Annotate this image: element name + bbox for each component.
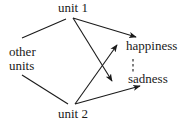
edge-unit2-sadness xyxy=(75,86,140,104)
emotion-units-diagram: unit 1 unit 2 other units happiness sadn… xyxy=(0,0,180,127)
node-unit1: unit 1 xyxy=(58,1,88,15)
edge-other-unit2 xyxy=(22,75,68,104)
node-other-line2: units xyxy=(9,59,34,73)
edge-unit2-happiness xyxy=(75,45,117,104)
node-other-line1: other xyxy=(9,45,36,59)
node-happiness: happiness xyxy=(126,39,177,53)
edge-other-unit1 xyxy=(22,19,66,38)
node-unit2: unit 2 xyxy=(58,107,88,121)
node-sadness: sadness xyxy=(128,72,168,86)
